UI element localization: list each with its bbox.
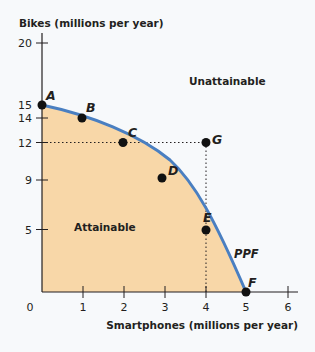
x-tick-label-1: 1 bbox=[80, 301, 87, 314]
point-label-c: C bbox=[128, 125, 138, 140]
x-tick-label-0: 0 bbox=[27, 301, 34, 314]
y-tick-label-5: 5 bbox=[25, 224, 32, 237]
point-c bbox=[119, 138, 128, 147]
ppf-chart: Bikes (millions per year) Smartphones (m… bbox=[0, 0, 315, 352]
x-tick-label-3: 3 bbox=[162, 301, 169, 314]
point-label-f: F bbox=[248, 275, 257, 290]
unattainable-label: Unattainable bbox=[189, 75, 266, 87]
y-tick-label-20: 20 bbox=[18, 37, 32, 50]
point-label-b: B bbox=[86, 100, 96, 115]
x-tick-label-4: 4 bbox=[203, 301, 210, 314]
point-d bbox=[158, 174, 167, 183]
y-tick-label-9: 9 bbox=[25, 174, 32, 187]
point-label-e: E bbox=[203, 210, 212, 225]
y-tick-label-14: 14 bbox=[18, 112, 32, 125]
point-label-a: A bbox=[45, 88, 56, 103]
attainable-label: Attainable bbox=[74, 221, 136, 233]
y-axis-title: Bikes (millions per year) bbox=[19, 17, 164, 29]
x-tick-label-2: 2 bbox=[121, 301, 128, 314]
point-label-g: G bbox=[212, 132, 222, 147]
x-tick-label-5: 5 bbox=[243, 301, 250, 314]
x-axis-title: Smartphones (millions per year) bbox=[106, 319, 298, 331]
y-tick-label-15: 15 bbox=[18, 99, 32, 112]
y-tick-label-12: 12 bbox=[18, 137, 32, 150]
point-g bbox=[202, 138, 211, 147]
point-e bbox=[202, 226, 211, 235]
x-tick-label-6: 6 bbox=[285, 301, 292, 314]
point-label-d: D bbox=[168, 163, 178, 178]
ppf-label: PPF bbox=[234, 247, 259, 261]
